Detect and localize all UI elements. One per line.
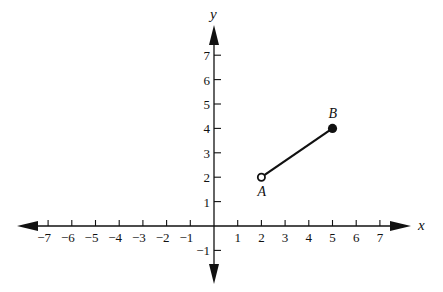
point-b-label: B (329, 106, 338, 121)
x-tick-label: 4 (306, 230, 313, 245)
x-tick-label: 3 (282, 230, 289, 245)
x-axis-right-arrow-icon (390, 221, 411, 231)
coordinate-plane: xy −7−6−5−4−3−2−11234567 −11234567 AB (0, 0, 443, 292)
y-tick-label: 2 (204, 170, 211, 185)
x-axis-left-arrow-icon (17, 221, 38, 231)
y-tick-label: 1 (204, 195, 211, 210)
x-tick-label: −3 (132, 230, 146, 245)
y-axis-up-arrow-icon (209, 25, 219, 45)
x-tick-label: −7 (37, 230, 51, 245)
closed-point-b-icon (328, 124, 337, 133)
y-tick-label: 3 (204, 146, 211, 161)
x-tick-label: 6 (353, 230, 360, 245)
x-tick-label: 2 (258, 230, 265, 245)
y-axis-ticks: −11234567 (196, 48, 221, 258)
x-tick-label: −1 (179, 230, 193, 245)
axes: xy (17, 6, 425, 284)
open-point-a-icon (258, 174, 265, 181)
line-segment-ab: AB (256, 106, 337, 199)
y-axis-down-arrow-icon (209, 264, 219, 284)
x-tick-label: 5 (329, 230, 336, 245)
x-tick-label: −4 (108, 230, 122, 245)
point-a-label: A (256, 184, 266, 199)
y-tick-label: 4 (204, 121, 211, 136)
x-tick-label: 7 (377, 230, 384, 245)
y-tick-label: −1 (196, 243, 210, 258)
x-tick-label: −6 (61, 230, 75, 245)
x-axis-ticks: −7−6−5−4−3−2−11234567 (37, 220, 383, 245)
y-axis-label: y (208, 6, 217, 22)
x-tick-label: −2 (156, 230, 170, 245)
y-tick-label: 6 (204, 73, 211, 88)
x-tick-label: −5 (85, 230, 99, 245)
y-tick-label: 7 (204, 48, 211, 63)
x-tick-label: 1 (234, 230, 241, 245)
y-tick-label: 5 (204, 97, 211, 112)
segment-line (261, 128, 332, 177)
x-axis-label: x (417, 217, 425, 233)
